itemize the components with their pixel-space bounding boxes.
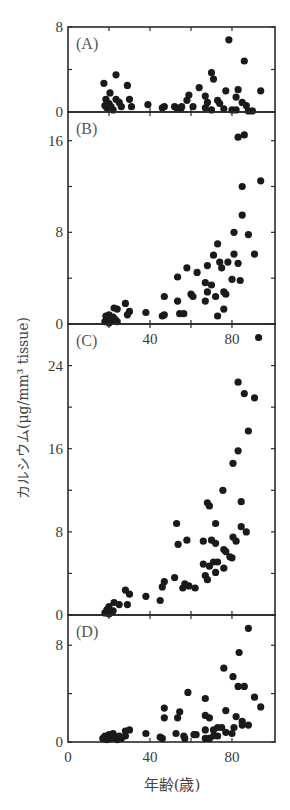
data-point xyxy=(228,276,235,283)
y-axis-title: カルシウム(μg/mm³ tissue) xyxy=(12,317,32,499)
data-point xyxy=(212,520,219,527)
panel-frame xyxy=(68,27,275,112)
data-point xyxy=(230,724,237,731)
data-point xyxy=(202,279,209,286)
data-point xyxy=(208,69,215,76)
data-point xyxy=(239,212,246,219)
data-point xyxy=(220,306,227,313)
data-point xyxy=(202,726,209,733)
y-tick-label: 24 xyxy=(48,358,64,374)
data-point xyxy=(238,498,245,505)
x-axis-title: 年齢(歳) xyxy=(112,773,232,794)
y-tick-label: 16 xyxy=(48,133,64,149)
data-point xyxy=(196,84,203,91)
data-point xyxy=(189,103,196,110)
panel-label: (C) xyxy=(76,332,97,350)
data-point xyxy=(238,523,245,530)
data-point xyxy=(174,273,181,280)
y-tick-label: 0 xyxy=(56,104,64,120)
data-point xyxy=(245,231,252,238)
data-point xyxy=(222,87,229,94)
data-point xyxy=(245,625,252,632)
data-point xyxy=(185,91,192,98)
data-point xyxy=(172,730,179,737)
data-point xyxy=(204,262,211,269)
data-point xyxy=(122,732,129,739)
data-point xyxy=(112,71,119,78)
data-point xyxy=(122,300,129,307)
data-point xyxy=(235,260,242,267)
data-point xyxy=(214,732,221,739)
y-tick-label: 0 xyxy=(56,607,64,623)
data-point xyxy=(257,703,264,710)
data-point xyxy=(204,576,211,583)
data-point xyxy=(228,554,235,561)
data-point xyxy=(161,578,168,585)
data-point xyxy=(161,714,168,721)
data-point xyxy=(100,80,107,87)
data-point xyxy=(171,574,178,581)
data-point xyxy=(194,269,201,276)
data-point xyxy=(222,729,229,736)
calcium-vs-age-figure: 08(A)0816(B)081624(C)08(D) 040804080 xyxy=(0,0,290,810)
data-point xyxy=(212,540,219,547)
data-point xyxy=(106,89,113,96)
data-point xyxy=(235,134,242,141)
data-point xyxy=(161,311,168,318)
data-point xyxy=(142,309,149,316)
data-point xyxy=(245,427,252,434)
panel-d: 08(D) xyxy=(56,615,276,750)
data-point xyxy=(144,101,151,108)
data-point xyxy=(176,708,183,715)
data-point xyxy=(214,240,221,247)
data-point xyxy=(183,537,190,544)
data-point xyxy=(257,87,264,94)
data-point xyxy=(116,601,123,608)
data-point xyxy=(202,104,209,111)
panel-a: 08(A) xyxy=(56,19,276,120)
data-point xyxy=(189,293,196,300)
data-point xyxy=(118,103,125,110)
y-tick-label: 8 xyxy=(56,637,64,653)
scatter-panels: 08(A)0816(B)081624(C)08(D) xyxy=(48,19,275,750)
data-point xyxy=(192,584,199,591)
data-point xyxy=(210,76,217,83)
data-point xyxy=(245,722,252,729)
data-point xyxy=(235,379,242,386)
data-point xyxy=(218,264,225,271)
data-point xyxy=(230,251,237,258)
data-point xyxy=(157,597,164,604)
data-point xyxy=(124,311,131,318)
data-point xyxy=(124,82,131,89)
data-point xyxy=(241,683,248,690)
data-point xyxy=(124,601,131,608)
data-point xyxy=(235,447,242,454)
data-point xyxy=(243,528,250,535)
panel-label: (A) xyxy=(76,35,98,53)
data-point xyxy=(101,102,108,109)
data-point xyxy=(235,683,242,690)
data-point xyxy=(180,310,187,317)
data-point xyxy=(251,394,258,401)
data-point xyxy=(241,131,248,138)
y-tick-label: 0 xyxy=(56,734,64,750)
data-point xyxy=(225,36,232,43)
x-axis: 040804080 xyxy=(64,331,239,765)
y-tick-label: 8 xyxy=(56,19,64,35)
x-tick-label: 40 xyxy=(142,331,157,347)
data-point xyxy=(233,94,240,101)
data-point xyxy=(114,306,121,313)
data-point xyxy=(214,312,221,319)
data-point xyxy=(126,726,133,733)
data-point xyxy=(202,93,209,100)
data-point xyxy=(193,731,200,738)
data-point xyxy=(220,665,227,672)
panel-c: 081624(C) xyxy=(48,324,275,623)
data-point xyxy=(233,538,240,545)
data-point xyxy=(183,264,190,271)
data-point xyxy=(206,714,213,721)
x-tick-label: 80 xyxy=(224,749,239,765)
data-point xyxy=(126,591,133,598)
data-point xyxy=(251,694,258,701)
panel-frame xyxy=(68,324,275,615)
